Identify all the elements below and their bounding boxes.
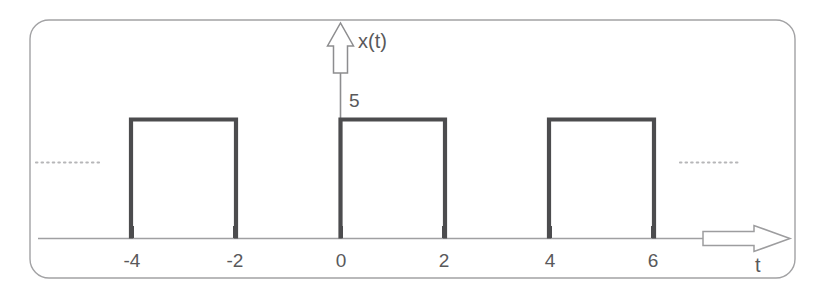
pulse-train-chart: -4 -2 0 2 4 6 5 x(t) t (0, 0, 825, 293)
y-axis-label: x(t) (358, 30, 387, 52)
amplitude-value-label: 5 (349, 90, 360, 111)
tick-label-0: 0 (336, 250, 347, 271)
pulse-rect-1 (131, 120, 236, 239)
tick-label-4: 4 (545, 250, 556, 271)
tick-label-6: 6 (648, 250, 659, 271)
pulse-rect-2 (341, 120, 446, 239)
x-axis-arrow-icon (703, 226, 790, 252)
x-axis-label: t (755, 254, 761, 276)
x-axis-ticks (132, 226, 653, 238)
figure-container: -4 -2 0 2 4 6 5 x(t) t (0, 0, 825, 293)
tick-label-minus2: -2 (227, 250, 244, 271)
tick-label-2: 2 (439, 250, 450, 271)
tick-label-minus4: -4 (124, 250, 141, 271)
pulse-rect-3 (549, 120, 654, 239)
y-axis-arrow-icon (328, 23, 354, 73)
